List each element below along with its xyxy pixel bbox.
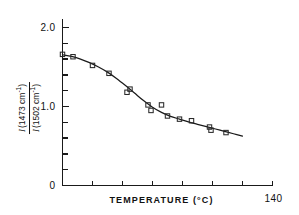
data-point-marker [149,108,153,112]
y-tick-label: 1.0 [40,101,55,112]
data-point-marker [125,90,129,94]
y-tick-label: 0 [50,180,56,191]
axes-group [63,19,273,186]
y-tick-label: 2.0 [40,22,55,33]
data-markers [60,52,228,135]
chart-canvas: 2.01.00140TEMPERATURE (°C) [0,0,299,215]
figure-root: 2.01.00140TEMPERATURE (°C) I(1473 cm-1) … [0,0,299,215]
ticks-group [63,28,273,186]
x-axis-title: TEMPERATURE (°C) [109,195,213,205]
axis-tick-labels: 2.01.00140TEMPERATURE (°C) [40,22,282,204]
fit-curve [63,55,243,136]
x-tick-label-140: 140 [265,193,283,204]
data-point-marker [159,103,163,107]
fit-curve-path [63,55,243,136]
